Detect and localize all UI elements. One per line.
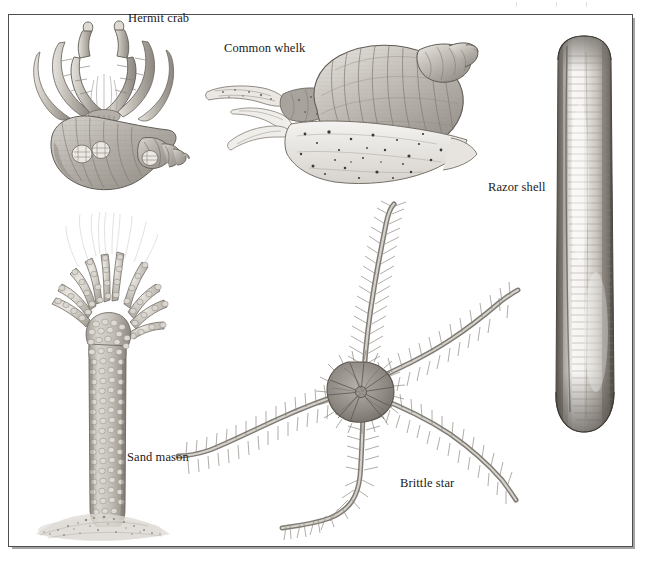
illustration-plate: Hermit crab Common whelk Razor shell San… <box>0 0 646 569</box>
label-brittle-star: Brittle star <box>400 476 454 491</box>
figure-razor-shell <box>546 32 624 438</box>
crop-marks <box>0 0 646 14</box>
label-sand-mason: Sand mason <box>127 450 189 465</box>
label-razor-shell: Razor shell <box>488 180 546 195</box>
figure-sand-mason <box>28 212 188 542</box>
figure-brittle-star <box>178 196 518 536</box>
figure-hermit-crab <box>18 18 198 198</box>
figure-common-whelk <box>205 40 480 190</box>
label-hermit-crab: Hermit crab <box>128 11 189 26</box>
label-common-whelk: Common whelk <box>224 41 305 56</box>
